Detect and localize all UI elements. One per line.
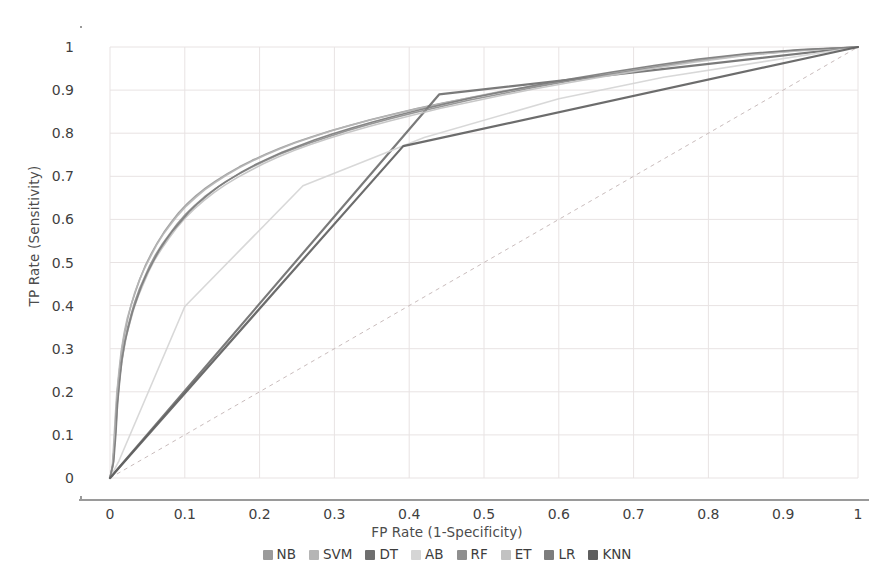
legend-swatch-icon bbox=[457, 550, 467, 560]
legend-label: RF bbox=[471, 548, 488, 562]
x-axis-line bbox=[79, 499, 869, 501]
legend-item-et[interactable]: ET bbox=[501, 548, 532, 562]
plot-area bbox=[80, 28, 862, 496]
y-axis-label: TP Rate (Sensitivity) bbox=[26, 36, 42, 436]
chart-legend: NBSVMDTABRFETLRKNN bbox=[0, 548, 894, 562]
legend-item-lr[interactable]: LR bbox=[544, 548, 575, 562]
legend-label: AB bbox=[425, 548, 444, 562]
legend-swatch-icon bbox=[263, 550, 273, 560]
x-tick-label: 0.5 bbox=[454, 506, 514, 522]
legend-item-dt[interactable]: DT bbox=[365, 548, 398, 562]
x-tick-label: 1 bbox=[828, 506, 888, 522]
legend-label: KNN bbox=[602, 548, 631, 562]
x-axis-label: FP Rate (1-Specificity) bbox=[0, 524, 894, 540]
x-tick-label: 0.8 bbox=[678, 506, 738, 522]
legend-swatch-icon bbox=[544, 550, 554, 560]
legend-swatch-icon bbox=[501, 550, 511, 560]
y-tick-label: 0 bbox=[4, 470, 74, 486]
legend-label: ET bbox=[515, 548, 532, 562]
legend-item-ab[interactable]: AB bbox=[411, 548, 444, 562]
legend-swatch-icon bbox=[365, 550, 375, 560]
legend-swatch-icon bbox=[588, 550, 598, 560]
x-tick-label: 0.9 bbox=[753, 506, 813, 522]
legend-label: DT bbox=[379, 548, 398, 562]
x-tick-label: 0.3 bbox=[304, 506, 364, 522]
x-tick-label: 0.6 bbox=[529, 506, 589, 522]
roc-chart-figure: 00.10.20.30.40.50.60.70.80.91 00.10.20.3… bbox=[0, 0, 894, 585]
x-tick-label: 0.7 bbox=[604, 506, 664, 522]
legend-item-svm[interactable]: SVM bbox=[309, 548, 352, 562]
legend-item-nb[interactable]: NB bbox=[263, 548, 296, 562]
x-tick-label: 0.1 bbox=[155, 506, 215, 522]
legend-label: NB bbox=[277, 548, 296, 562]
x-tick-label: 0.2 bbox=[230, 506, 290, 522]
legend-label: SVM bbox=[323, 548, 352, 562]
legend-label: LR bbox=[558, 548, 575, 562]
x-tick-label: 0 bbox=[80, 506, 140, 522]
roc-curves-svg bbox=[80, 28, 862, 496]
legend-item-knn[interactable]: KNN bbox=[588, 548, 631, 562]
legend-swatch-icon bbox=[411, 550, 421, 560]
legend-item-rf[interactable]: RF bbox=[457, 548, 488, 562]
legend-swatch-icon bbox=[309, 550, 319, 560]
x-tick-label: 0.4 bbox=[379, 506, 439, 522]
